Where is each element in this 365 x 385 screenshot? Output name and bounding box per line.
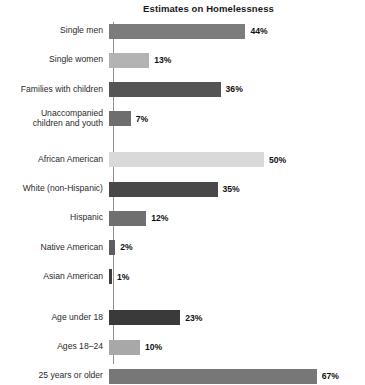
bar-track: 12% (108, 209, 365, 227)
bar-value-label: 2% (120, 242, 132, 252)
bar-value-label: 12% (151, 213, 168, 223)
bar (109, 111, 131, 126)
bar-row: Families with children36% (0, 80, 365, 98)
bar-track: 13% (108, 51, 365, 69)
bar-track: 67% (108, 367, 365, 385)
bar (109, 240, 115, 255)
bar-row: Native American2% (0, 238, 365, 256)
bar-row: Age under 1823% (0, 309, 365, 327)
bar-row: Hispanic12% (0, 209, 365, 227)
bar-category-label: Native American (0, 243, 108, 253)
bar-track: 35% (108, 180, 365, 198)
bar-value-label: 13% (154, 55, 171, 65)
bar-value-label: 67% (322, 371, 339, 381)
bar-track: 44% (108, 22, 365, 40)
bar-category-label: Asian American (0, 272, 108, 282)
bar-track: 10% (108, 338, 365, 356)
bar-value-label: 23% (185, 313, 202, 323)
bar-category-label: Hispanic (0, 213, 108, 223)
bar (109, 53, 149, 68)
bar-row: 25 years or older67% (0, 367, 365, 385)
bar-track: 36% (108, 80, 365, 98)
bar-category-label: Families with children (0, 85, 108, 95)
bar-track: 7% (108, 110, 365, 128)
bar (109, 24, 245, 39)
bar (109, 82, 221, 97)
bar-category-label: Age under 18 (0, 313, 108, 323)
bar-row: Unaccompanied children and youth7% (0, 110, 365, 128)
bar (109, 152, 264, 167)
bar-value-label: 50% (269, 155, 286, 165)
bar (109, 369, 317, 384)
bar-category-label: Single men (0, 26, 108, 36)
bar-category-label: Unaccompanied children and youth (0, 109, 108, 128)
bar-track: 2% (108, 238, 365, 256)
bar-value-label: 10% (145, 342, 162, 352)
plot-area: Single men44%Single women13%Families wit… (0, 20, 365, 372)
bar-value-label: 7% (136, 114, 148, 124)
bar-track: 50% (108, 151, 365, 169)
bar-row: White (non-Hispanic)35% (0, 180, 365, 198)
bar-row: Single women13% (0, 51, 365, 69)
bar-value-label: 35% (223, 184, 240, 194)
bar-row: Asian American1% (0, 268, 365, 286)
bar (109, 211, 146, 226)
bar-category-label: 25 years or older (0, 371, 108, 381)
bar-value-label: 1% (117, 272, 129, 282)
bar-row: Single men44% (0, 22, 365, 40)
bar-category-label: White (non-Hispanic) (0, 184, 108, 194)
bar (109, 340, 140, 355)
bar (109, 269, 112, 284)
bar-row: Ages 18–2410% (0, 338, 365, 356)
bar (109, 310, 180, 325)
bar-value-label: 44% (250, 26, 267, 36)
bar-category-label: African American (0, 155, 108, 165)
bar-row: African American50% (0, 151, 365, 169)
bar-value-label: 36% (226, 84, 243, 94)
bar (109, 182, 218, 197)
bar-category-label: Single women (0, 55, 108, 65)
bar-track: 1% (108, 268, 365, 286)
bar-track: 23% (108, 309, 365, 327)
chart-title: Estimates on Homelessness (0, 3, 365, 14)
bar-category-label: Ages 18–24 (0, 342, 108, 352)
